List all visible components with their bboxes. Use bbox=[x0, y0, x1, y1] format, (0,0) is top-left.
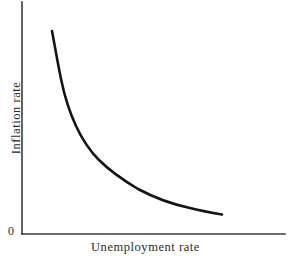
phillips-curve-line bbox=[52, 31, 222, 215]
origin-label: 0 bbox=[8, 225, 14, 237]
y-axis-label: Inflation rate bbox=[10, 58, 24, 178]
phillips-curve-chart: 0 Unemployment rate Inflation rate bbox=[0, 0, 291, 260]
chart-plot-area bbox=[0, 0, 291, 260]
x-axis-label: Unemployment rate bbox=[0, 241, 291, 255]
